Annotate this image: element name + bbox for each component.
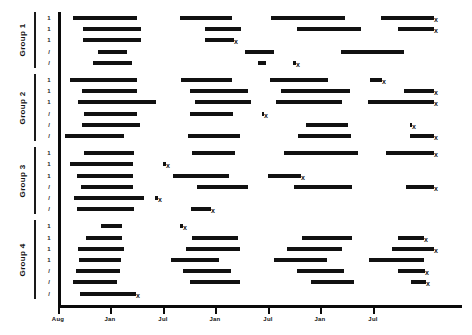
row-tick-label: / [48,206,50,212]
interval-bar [281,89,350,93]
interval-bar [192,151,235,155]
interval-bar [86,236,122,240]
interval-bar [411,280,426,284]
interval-bar [83,27,141,31]
interval-bar [84,151,134,155]
row-tick-label: 1 [47,235,50,241]
interval-bar [173,174,229,178]
interval-bar [306,123,348,127]
interval-bar [70,162,133,166]
interval-bar [82,89,137,93]
censor-marker: x [264,112,268,119]
censor-marker: x [158,196,162,203]
group-bracket [34,74,36,141]
interval-bar [83,38,141,42]
x-axis-tick-label: Jul [263,316,272,322]
censor-marker: x [434,16,438,23]
interval-bar [368,100,434,104]
row-tick-label: 1 [47,257,50,263]
group-label-2: Group 2 [18,91,27,124]
censor-marker: x [425,269,429,276]
interval-bar [197,185,248,189]
interval-bar [386,151,434,155]
row-tick-label: / [48,279,50,285]
interval-bar [191,207,211,211]
row-tick-label: 1 [47,26,50,32]
x-axis-tick [215,308,217,314]
row-tick-label: / [48,268,50,274]
interval-bar [297,27,361,31]
row-tick-label: / [48,184,50,190]
interval-bar [369,258,424,262]
interval-bar [74,196,144,200]
interval-bar [190,89,248,93]
interval-bar [298,134,351,138]
interval-bar [98,50,127,54]
interval-bar [271,16,345,20]
interval-bar [398,269,425,273]
interval-bar [180,16,232,20]
x-axis-tick-label: Jan [315,316,326,322]
censor-marker: x [434,185,438,192]
interval-bar [73,16,137,20]
interval-bar [171,258,219,262]
censor-marker: x [424,236,428,243]
censor-marker: x [296,61,300,68]
row-tick-label: / [48,133,50,139]
interval-bar [80,292,136,296]
row-tick-label: / [48,122,50,128]
interval-bar [70,78,137,82]
x-axis-tick [373,308,375,314]
x-axis-tick [58,308,60,314]
censor-marker: x [166,162,170,169]
interval-bar [294,185,352,189]
group-label-4: Group 4 [18,243,27,276]
interval-bar [93,61,132,65]
row-tick-label: 1 [47,150,50,156]
interval-bar [101,224,122,228]
interval-bar [205,38,234,42]
interval-bar [79,258,121,262]
interval-bar [77,174,133,178]
row-tick-label: / [48,291,50,297]
interval-bar [370,78,382,82]
x-axis-tick [268,308,270,314]
x-axis-tick-label: Jul [368,316,377,322]
interval-bar [190,112,233,116]
interval-bar [258,61,266,65]
interval-bar [186,247,240,251]
row-tick-label: / [48,195,50,201]
censor-marker: x [301,174,305,181]
censor-marker: x [412,123,416,130]
interval-bar [190,280,240,284]
interval-bar [270,78,328,82]
x-axis-tick-label: Jul [158,316,167,322]
interval-bar [398,27,434,31]
interval-bar [287,247,342,251]
group-label-1: Group 1 [18,24,27,57]
interval-bar [302,236,352,240]
censor-marker: x [434,27,438,34]
censor-marker: x [382,78,386,85]
interval-bar [76,269,120,273]
group-bracket [34,12,36,68]
row-tick-label: 1 [47,246,50,252]
y-axis-spine [58,12,61,305]
x-axis-tick-label: Jan [105,316,116,322]
censor-marker: x [426,280,430,287]
x-axis-tick [320,308,322,314]
interval-bar [78,247,124,251]
x-axis-tick-label: Aug [52,316,64,322]
interval-bar [381,16,434,20]
interval-bar [245,50,274,54]
interval-bar [392,247,434,251]
timeline-chart: AugJanJulJanJulJanJul1x1x1x//xGroup 11x1… [0,0,472,335]
row-tick-label: / [48,60,50,66]
row-tick-label: / [48,49,50,55]
row-tick-label: 1 [47,15,50,21]
row-tick-label: 1 [47,77,50,83]
interval-bar [181,78,232,82]
interval-bar [268,174,301,178]
group-bracket [34,220,36,298]
plot-area: AugJanJulJanJulJanJul1x1x1x//xGroup 11x1… [0,0,472,335]
